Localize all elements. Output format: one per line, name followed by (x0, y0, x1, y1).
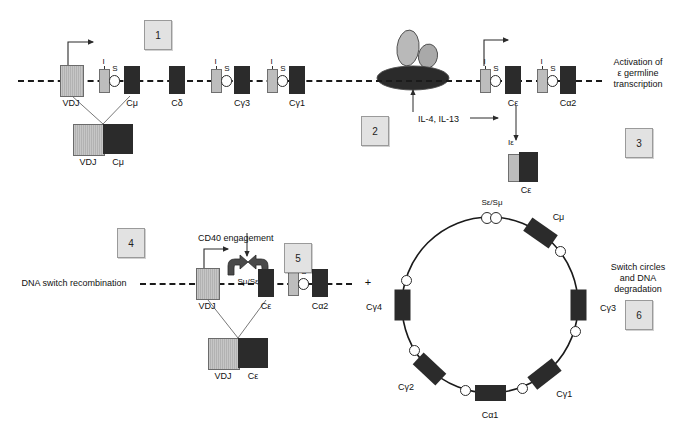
switch-circles-text-line3: degradation (614, 284, 662, 294)
plus-sign: + (365, 277, 371, 287)
step-box-1: 1 (144, 20, 172, 50)
transcript-vdj-ce-right-label: Cε (248, 371, 259, 381)
switch-junction-circle-2 (490, 212, 502, 224)
bottom-locus-label-Cepsilon: Cε (261, 301, 272, 311)
switch-circles-text-line2: and DNA (620, 273, 657, 283)
eps-locus-s-circle-Iepsilon (490, 75, 501, 86)
bottom-locus-label-VDJ: VDJ (198, 301, 215, 311)
switch-circle-label-Cg3: Cγ3 (600, 303, 616, 313)
switch-circle-sregion-Cg3 (570, 326, 581, 337)
top-locus-s-label-Ig1: S (280, 64, 285, 74)
switch-circle-block-Cg3 (570, 290, 586, 321)
eps-locus-segment-Calpha2 (560, 66, 576, 94)
top-locus-s-label-Ig3: S (224, 64, 229, 74)
eps-promoter-arrow (484, 40, 508, 66)
top-locus-segment-VDJ (60, 65, 84, 97)
transcript-ie-label: Iε (508, 138, 514, 148)
top-locus-segment-Cg1 (289, 66, 305, 94)
eps-locus-s-label-Ialpha2: S (550, 64, 555, 74)
top-locus-label-Cdelta: Cδ (171, 98, 183, 108)
eps-locus-i-tick-Iepsilon (485, 66, 486, 69)
switch-circle-label-Cg2: Cγ2 (398, 382, 414, 392)
top-locus-s-circle-Ig3 (221, 75, 232, 86)
transcript-vdj-cmu-right (103, 124, 133, 154)
top-locus-label-Cmu: Cμ (126, 98, 138, 108)
transcript-vdj-cmu-left (73, 124, 105, 156)
eps-locus-s-label-Iepsilon: S (493, 64, 498, 74)
receptor-membrane-base (377, 66, 449, 90)
transcript-vdj-cmu-left-label: VDJ (79, 157, 96, 167)
top-locus-label-Cg1: Cγ1 (289, 98, 305, 108)
switch-circle-sregion-Ca1 (460, 385, 471, 396)
top-locus-s-circle-Ig1 (277, 75, 288, 86)
switch-circle-label-Cg4: Cγ4 (366, 302, 382, 312)
step-box-6: 6 (625, 300, 653, 330)
activation-text-line3: transcription (613, 79, 662, 89)
transcript-ce-label: Cε (521, 185, 532, 195)
switch-circle-junction-label: Sε/Sμ (481, 198, 502, 208)
bottom-locus-segment-Calpha2 (312, 269, 328, 297)
activation-text-line1: Activation of (613, 57, 662, 67)
switch-circle-block-Ca1 (475, 385, 506, 401)
switch-circle-sregion-Cg2 (409, 345, 420, 356)
transcript-vdj-cmu-right-label: Cμ (112, 157, 124, 167)
step-box-2: 2 (361, 116, 389, 146)
bottom-locus-segment-Cepsilon (258, 269, 274, 297)
switch-circles-text-line1: Switch circles (611, 262, 666, 272)
switch-circle-label-Cg1: Cγ1 (556, 389, 572, 399)
eps-locus-i-tick-Ialpha2 (542, 66, 543, 69)
top-locus-segment-Cmu (124, 66, 140, 94)
top-locus-s-circle-Imu (109, 75, 120, 86)
switch-circle-label-Cmu: Cμ (553, 212, 565, 222)
top-locus-s-label-Imu: S (112, 64, 117, 74)
receptor-subunit-left (395, 29, 421, 67)
switch-region-arrow-left (228, 255, 248, 275)
eps-locus-segment-Cepsilon (505, 66, 521, 94)
figure-canvas: VDJISCμCδISCγ3ISCγ11VDJCμIL-4, IL-132ISC… (0, 0, 680, 422)
receptor-subunit-right (417, 43, 440, 70)
switch-circle-label-Ca1: Cα1 (482, 410, 499, 420)
cytokine-label: IL-4, IL-13 (418, 114, 459, 124)
bottom-locus-s-circle-Ialpha2 (298, 278, 309, 289)
transcript-vdj-ce-left (208, 338, 240, 370)
transcript-ce-box (519, 152, 538, 182)
top-locus-label-VDJ: VDJ (62, 98, 79, 108)
switch-circle-sregion-Cg1 (517, 383, 528, 394)
bottom-locus-label-Calpha2: Cα2 (312, 301, 329, 311)
transcript-vdj-ce-left-label: VDJ (214, 371, 231, 381)
smu-sepsilon-label: Sμ/Sε (237, 277, 258, 287)
dna-switch-recombination-label: DNA switch recombination (21, 278, 126, 288)
step-box-3: 3 (625, 128, 653, 158)
eps-locus-label-Calpha2: Cα2 (560, 98, 577, 108)
top-locus-segment-Cg3 (234, 66, 250, 94)
switch-circle-block-Cg4 (394, 290, 410, 321)
bottom-locus-segment-VDJ (196, 268, 220, 300)
top-locus-segment-Cdelta (169, 66, 185, 94)
activation-text-line2: ε germline (617, 68, 658, 78)
cd40-engagement-label: CD40 engagement (198, 233, 274, 243)
transcript-vdj-ce-right (238, 338, 268, 368)
top-locus-i-tick-Ig3 (216, 66, 217, 69)
eps-locus-label-Cepsilon: Cε (508, 98, 519, 108)
top-locus-label-Cg3: Cγ3 (234, 98, 250, 108)
eps-locus-s-circle-Ialpha2 (547, 75, 558, 86)
step-box-4: 4 (117, 228, 145, 258)
step-box-5: 5 (284, 243, 312, 273)
top-locus-i-tick-Imu (104, 66, 105, 69)
top-locus-i-tick-Ig1 (272, 66, 273, 69)
